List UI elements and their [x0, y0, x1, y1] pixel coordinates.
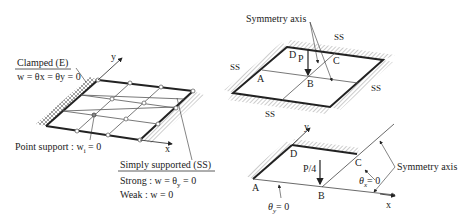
svg-text:Point support : wi = 0: Point support : wi = 0: [15, 141, 101, 155]
point-support-node: [92, 113, 96, 117]
point-A: A: [252, 182, 260, 193]
load-label: P: [298, 53, 304, 64]
ss-left-label: SS: [230, 62, 240, 72]
clamped-title: Clamped (E): [17, 57, 68, 69]
y-axis-arrow: [98, 58, 122, 80]
bottom-right-quarter-figure: y x P/4 A B C D θx= 0 θy= 0 Symmetry axi…: [246, 121, 457, 215]
diagram-canvas: x y Clamped (E) w = θx = θy = 0 Point su…: [0, 0, 471, 224]
point-C: C: [355, 157, 362, 168]
quarter-load-label: P/4: [303, 163, 316, 174]
svg-text:θy= 0: θy= 0: [268, 201, 289, 215]
point-support-leader: [90, 117, 94, 140]
left-plate-figure: x y Clamped (E) w = θx = θy = 0 Point su…: [15, 51, 215, 200]
ss-strong-label: Strong : w = θ: [120, 175, 177, 186]
top-right-plate-figure: Symmetry axis SS SS SS SS P A B C D: [224, 13, 395, 119]
point-C: C: [333, 55, 340, 66]
point-support-label: Point support : w: [15, 141, 84, 152]
left-axis-y-label: y: [111, 51, 116, 62]
point-D: D: [289, 49, 296, 60]
svg-text:θx= 0: θx= 0: [359, 175, 380, 189]
point-B: B: [318, 190, 325, 201]
clamped-equation: w = θx = θy = 0: [17, 71, 81, 82]
left-axis-x-label: x: [165, 143, 170, 154]
point-D: D: [290, 148, 297, 159]
ss-right-label: SS: [371, 83, 381, 93]
point-A: A: [257, 73, 265, 84]
right-axis-x-label: x: [386, 199, 391, 210]
ss-bottom-label: SS: [265, 109, 275, 119]
top-symmetry-label: Symmetry axis: [246, 13, 306, 24]
ss-weak-label: Weak : w = 0: [120, 189, 173, 200]
clamped-hatch: [36, 77, 98, 126]
svg-text:Strong : w = θy = 0: Strong : w = θy = 0: [120, 175, 196, 189]
point-B: B: [307, 78, 314, 89]
bottom-symmetry-label: Symmetry axis: [397, 161, 457, 172]
ss-top-label: SS: [334, 32, 344, 42]
ss-title: Simply supported (SS): [120, 159, 211, 171]
right-axis-y-label: y: [304, 121, 309, 132]
